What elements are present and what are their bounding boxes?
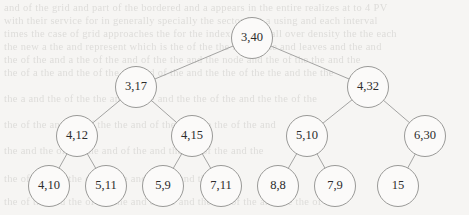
- tree-edge-n2-n6: [384, 100, 410, 122]
- tree-node[interactable]: 6,30: [405, 116, 446, 157]
- tree-nodes-group: 3,403,174,324,124,155,106,304,105,115,97…: [29, 18, 446, 207]
- tree-node-label: 5,9: [155, 178, 171, 192]
- tree-node[interactable]: 7,9: [315, 166, 356, 207]
- tree-node-label: 3,17: [125, 79, 147, 93]
- tree-node[interactable]: 4,15: [172, 116, 213, 157]
- tree-node-label: 4,12: [66, 128, 88, 142]
- tree-node-label: 4,15: [181, 128, 203, 142]
- tree-edge-n1-n4: [151, 100, 176, 122]
- tree-edge-n2-n5: [323, 100, 352, 123]
- tree-edge-n0-n1: [155, 46, 233, 79]
- tree-node-label: 15: [392, 178, 405, 192]
- tree-edge-n3-n8: [87, 154, 95, 169]
- tree-edge-n5-n12: [317, 154, 325, 168]
- tree-node[interactable]: 5,9: [143, 166, 184, 207]
- tree-node[interactable]: 4,10: [29, 166, 70, 207]
- tree-node[interactable]: 15: [378, 166, 419, 207]
- tree-edge-n1-n3: [93, 100, 120, 123]
- tree-node[interactable]: 5,10: [287, 116, 328, 157]
- figure-canvas: and of the grid and part of the bordered…: [0, 0, 469, 215]
- tree-edge-n6-n13: [408, 154, 416, 168]
- tree-node-label: 3,40: [241, 30, 263, 44]
- tree-node-label: 8,8: [270, 178, 286, 192]
- tree-edges-group: [59, 46, 415, 168]
- tree-node-label: 7,11: [210, 178, 231, 192]
- tree-edge-n3-n7: [59, 154, 67, 168]
- tree-node-label: 6,30: [414, 128, 436, 142]
- tree-node[interactable]: 3,40: [232, 18, 273, 59]
- tree-node-label: 5,11: [95, 178, 116, 192]
- tree-node[interactable]: 5,11: [86, 166, 127, 207]
- binary-tree-diagram: 3,403,174,324,124,155,106,304,105,115,97…: [0, 0, 469, 215]
- tree-node-label: 7,9: [327, 178, 343, 192]
- tree-node-label: 4,32: [357, 79, 379, 93]
- tree-node[interactable]: 4,32: [348, 67, 389, 108]
- tree-node-label: 4,10: [38, 178, 60, 192]
- tree-node[interactable]: 4,12: [57, 116, 98, 157]
- tree-edge-n5-n11: [288, 154, 296, 169]
- tree-node[interactable]: 3,17: [116, 67, 157, 108]
- tree-edge-n4-n10: [202, 154, 210, 169]
- tree-node[interactable]: 7,11: [201, 166, 242, 207]
- tree-node-label: 5,10: [296, 128, 318, 142]
- tree-edge-n4-n9: [173, 154, 181, 169]
- tree-edge-n0-n2: [271, 46, 349, 79]
- tree-node[interactable]: 8,8: [258, 166, 299, 207]
